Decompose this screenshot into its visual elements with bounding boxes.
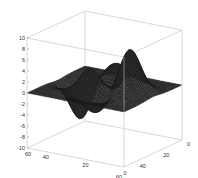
box-edge [124,140,182,167]
y-tick-label: 60 [116,174,122,178]
z-tick-label: 4 [22,68,25,74]
x-axis: 6040200 [25,151,127,176]
x-tick-label: 40 [43,154,49,160]
z-tick-label: -10 [17,145,25,151]
box-edge [85,11,182,30]
z-tick-label: 6 [22,57,25,63]
box-edge [85,121,182,140]
z-tick-label: -8 [20,134,25,140]
x-tick-label: 0 [123,170,126,176]
surface-mesh [27,50,182,119]
z-tick-label: 10 [19,35,25,41]
x-tick-label: 20 [82,162,88,168]
z-tick-label: -4 [20,112,25,118]
x-tick-label: 60 [25,151,31,157]
box-edge [27,148,124,167]
z-tick-label: -6 [20,123,25,129]
z-tick-label: 2 [22,79,25,85]
y-axis: 0204060 [116,141,190,178]
z-tick-label: 0 [22,90,25,96]
y-tick-label: 20 [163,152,169,158]
z-tick-label: 8 [22,46,25,52]
box-edge [27,11,85,38]
box-edge [27,121,85,148]
y-tick-label: 40 [140,163,146,169]
z-tick-label: -2 [20,101,25,107]
box-edge [27,38,124,57]
y-tick-label: 0 [187,141,190,147]
surface-plot: 1086420-2-4-6-8-10 6040200 0204060 [0,0,198,178]
